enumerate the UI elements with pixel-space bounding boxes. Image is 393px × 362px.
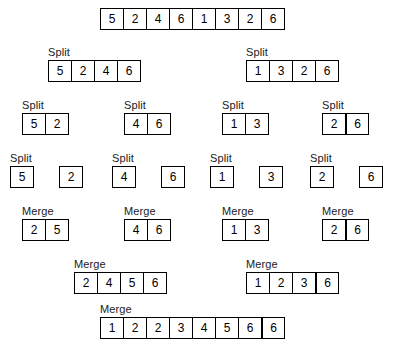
array-cell: 6: [169, 8, 193, 30]
array-cell: 5: [22, 113, 46, 135]
array-merged-pair-2: 46: [124, 219, 171, 241]
array-left-half: 5246: [48, 60, 141, 82]
array-cell: 2: [310, 166, 334, 188]
array-merged-half-right: 1236: [246, 272, 339, 294]
array-cell: 5: [120, 272, 144, 294]
array-cell: 5: [10, 166, 34, 188]
array-cell: 3: [259, 166, 283, 188]
array-pair-1: 52: [22, 113, 69, 135]
array-cell: 2: [322, 219, 346, 241]
array-cell: 6: [345, 113, 369, 135]
array-cell: 4: [124, 113, 148, 135]
array-merged-pair-1: 25: [22, 219, 69, 241]
array-cell: 2: [45, 113, 69, 135]
array-merged-pair-3: 13: [222, 219, 269, 241]
array-single-2: 46: [112, 166, 185, 188]
array-single-1: 52: [10, 166, 83, 188]
array-root: 52461326: [100, 8, 285, 30]
array-pair-2: 46: [124, 113, 171, 135]
array-cell: 6: [315, 272, 339, 294]
array-cell: 4: [192, 317, 216, 339]
array-cell: 4: [124, 219, 148, 241]
array-cell: 2: [71, 60, 95, 82]
array-cell: 6: [315, 60, 339, 82]
array-cell: 5: [215, 317, 239, 339]
array-cell: 1: [192, 8, 216, 30]
array-cell: 4: [97, 272, 121, 294]
array-single-4: 26: [310, 166, 383, 188]
merge-sort-diagram: 52461326Split5246Split1326Split52Split46…: [0, 0, 393, 362]
array-cell: 6: [238, 317, 262, 339]
array-cell: 2: [322, 113, 346, 135]
array-cell: 4: [94, 60, 118, 82]
array-right-half: 1326: [246, 60, 339, 82]
array-cell: 6: [359, 166, 383, 188]
array-cell: 1: [210, 166, 234, 188]
array-cell: 1: [246, 60, 270, 82]
array-cell: 2: [269, 272, 293, 294]
array-cell: 2: [292, 60, 316, 82]
array-cell: 1: [222, 219, 246, 241]
array-cell: 6: [345, 219, 369, 241]
array-cell: 6: [117, 60, 141, 82]
array-merged-pair-4: 26: [322, 219, 369, 241]
array-cell: 2: [146, 317, 170, 339]
array-cell: 6: [161, 166, 185, 188]
array-cell: 6: [261, 317, 285, 339]
array-cell: 3: [245, 113, 269, 135]
array-cell: 3: [169, 317, 193, 339]
array-cell: 4: [146, 8, 170, 30]
array-cell: 2: [238, 8, 262, 30]
array-single-3: 13: [210, 166, 283, 188]
array-cell: 2: [123, 317, 147, 339]
array-cell: 3: [245, 219, 269, 241]
array-cell: 3: [215, 8, 239, 30]
array-cell: 6: [147, 219, 171, 241]
array-cell: 3: [292, 272, 316, 294]
array-cell: 5: [48, 60, 72, 82]
array-cell: 1: [246, 272, 270, 294]
array-cell: 3: [269, 60, 293, 82]
array-pair-4: 26: [322, 113, 369, 135]
array-cell: 5: [100, 8, 124, 30]
array-cell: 6: [147, 113, 171, 135]
array-cell: 2: [123, 8, 147, 30]
array-cell: 4: [112, 166, 136, 188]
array-cell: 2: [22, 219, 46, 241]
array-final-sorted: 12234566: [100, 317, 285, 339]
array-cell: 2: [74, 272, 98, 294]
array-merged-half-left: 2456: [74, 272, 167, 294]
array-cell: 2: [59, 166, 83, 188]
array-cell: 1: [100, 317, 124, 339]
array-cell: 5: [45, 219, 69, 241]
array-pair-3: 13: [222, 113, 269, 135]
array-cell: 6: [143, 272, 167, 294]
array-cell: 6: [261, 8, 285, 30]
array-cell: 1: [222, 113, 246, 135]
